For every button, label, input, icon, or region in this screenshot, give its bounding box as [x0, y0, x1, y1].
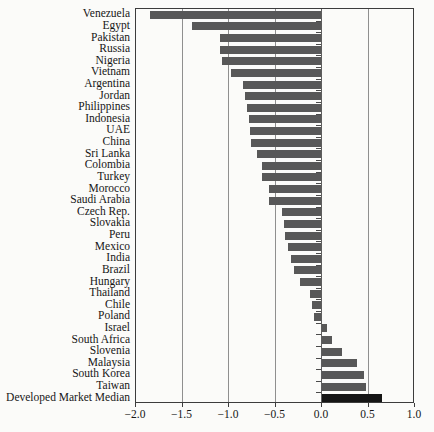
bar [257, 150, 321, 158]
category-tick [316, 241, 321, 242]
category-tick [316, 276, 321, 277]
bar [300, 278, 321, 286]
bar [249, 115, 321, 123]
bar [220, 34, 321, 42]
category-label: Jordan [0, 89, 130, 101]
category-label: South Korea [0, 367, 130, 379]
bar [322, 336, 332, 344]
category-label: Taiwan [0, 379, 130, 391]
bar [220, 46, 321, 54]
category-label: Saudi Arabia [0, 193, 130, 205]
bar [285, 232, 321, 240]
category-label: Thailand [0, 286, 130, 298]
category-label: Russia [0, 42, 130, 54]
category-tick [316, 90, 321, 91]
bar [294, 266, 321, 274]
category-label: Argentina [0, 77, 130, 89]
bar [310, 290, 321, 298]
bar [245, 92, 321, 100]
category-tick [316, 358, 321, 359]
category-label: South Africa [0, 333, 130, 345]
bar [269, 197, 321, 205]
category-label: Slovakia [0, 216, 130, 228]
bar [322, 383, 366, 391]
category-label: Morocco [0, 182, 130, 194]
bar [192, 22, 321, 30]
category-label: Egypt [0, 19, 130, 31]
x-axis-tick [135, 403, 136, 407]
bar [269, 185, 321, 193]
bar [312, 301, 321, 309]
category-label: Venezuela [0, 7, 130, 19]
bar [322, 348, 342, 356]
bar [231, 69, 321, 77]
category-tick [316, 218, 321, 219]
category-tick [316, 334, 321, 335]
category-label: Philippines [0, 100, 130, 112]
bar [322, 371, 364, 379]
category-label: Turkey [0, 170, 130, 182]
bar [262, 173, 321, 181]
bar [150, 11, 321, 19]
bar [291, 255, 321, 263]
x-tick-label: 1.0 [392, 408, 434, 421]
bar [250, 127, 321, 135]
bar [247, 104, 321, 112]
category-label: Hungary [0, 275, 130, 287]
category-tick [316, 323, 321, 324]
category-label: UAE [0, 123, 130, 135]
category-label: Slovenia [0, 344, 130, 356]
x-tick-label: 0.0 [299, 408, 343, 421]
category-label: Israel [0, 321, 130, 333]
gridline [228, 9, 229, 402]
category-label: India [0, 251, 130, 263]
bar [284, 220, 321, 228]
x-tick-label: −2.0 [113, 408, 157, 421]
x-axis-tick [321, 403, 322, 407]
category-label: Colombia [0, 158, 130, 170]
x-axis-tick [275, 403, 276, 407]
category-label: Sri Lanka [0, 147, 130, 159]
gridline [182, 9, 183, 402]
category-label: Brazil [0, 263, 130, 275]
category-label: Malaysia [0, 356, 130, 368]
category-label: Mexico [0, 240, 130, 252]
x-axis-tick [182, 403, 183, 407]
bar [243, 81, 321, 89]
category-tick [316, 125, 321, 126]
x-tick-label: −1.0 [206, 408, 250, 421]
bar [282, 208, 321, 216]
category-tick [316, 346, 321, 347]
plot-area [135, 8, 414, 403]
category-tick [316, 299, 321, 300]
category-label: Czech Rep. [0, 205, 130, 217]
bar [222, 57, 321, 65]
category-tick [316, 55, 321, 56]
category-label: Poland [0, 309, 130, 321]
bar [314, 313, 321, 321]
x-tick-label: −0.5 [253, 408, 297, 421]
category-tick [316, 392, 321, 393]
category-label: Peru [0, 228, 130, 240]
category-label: Vietnam [0, 65, 130, 77]
bar [288, 243, 321, 251]
category-tick [316, 148, 321, 149]
bar [262, 162, 321, 170]
x-axis-tick [368, 403, 369, 407]
category-tick [316, 381, 321, 382]
bar [322, 394, 382, 402]
category-tick [316, 32, 321, 33]
category-label: China [0, 135, 130, 147]
x-axis-tick [228, 403, 229, 407]
category-label: Indonesia [0, 112, 130, 124]
bar [322, 324, 327, 332]
x-tick-label: 0.5 [346, 408, 390, 421]
category-tick [316, 369, 321, 370]
x-tick-label: −1.5 [160, 408, 204, 421]
bar [322, 359, 357, 367]
gridline [368, 9, 369, 402]
category-tick [316, 311, 321, 312]
category-tick [316, 67, 321, 68]
bar-chart-figure: VenezuelaEgyptPakistanRussiaNigeriaVietn… [0, 0, 434, 432]
category-tick [316, 183, 321, 184]
